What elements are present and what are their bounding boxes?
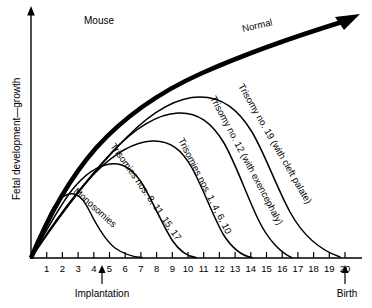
x-tick-label: 20 <box>340 263 351 274</box>
chart-canvas: 1 2 3 4 5 6 7 8 9 10 11 12 13 14 15 16 1… <box>0 0 372 308</box>
x-tick-label: 13 <box>230 263 241 274</box>
x-tick-label: 19 <box>324 263 335 274</box>
curve-label-trisomies-8-11-15-17: Trisomies nos. 8, 11, 15, 17 <box>108 141 184 242</box>
figure-fetal-development-chart: 1 2 3 4 5 6 7 8 9 10 11 12 13 14 15 16 1… <box>0 0 372 308</box>
x-tick-label: 17 <box>293 263 304 274</box>
x-tick-labels: 1 2 3 4 5 6 7 8 9 10 11 12 13 14 15 16 1… <box>44 263 350 274</box>
y-axis-title: Fetal development—growth <box>11 78 22 200</box>
implantation-arrow-icon <box>98 265 105 284</box>
x-tick-label: 3 <box>75 263 80 274</box>
x-tick-label: 16 <box>277 263 288 274</box>
x-tick-label: 1 <box>44 263 49 274</box>
x-tick-label: 15 <box>261 263 272 274</box>
x-tick-label: 5 <box>107 263 112 274</box>
x-tick-label: 11 <box>199 263 209 274</box>
x-tick-label: 7 <box>138 263 143 274</box>
curve-label-trisomy-19: Trisomy no. 19 (with cleft palate) <box>236 82 314 206</box>
curve-normal <box>31 14 360 258</box>
x-tick-label: 9 <box>170 263 175 274</box>
birth-label: Birth <box>337 288 358 299</box>
curve-label-trisomies-1-4-6-10: Trisomies nos. 1, 4, 6, 10 <box>176 136 234 236</box>
x-tick-label: 14 <box>246 263 257 274</box>
x-tick-label: 8 <box>154 263 159 274</box>
y-axis <box>27 6 35 258</box>
x-tick-label: 6 <box>123 263 128 274</box>
x-tick-label: 2 <box>60 263 65 274</box>
x-tick-label: 12 <box>214 263 225 274</box>
x-tick-label: 4 <box>91 263 96 274</box>
x-tick-label: 18 <box>308 263 319 274</box>
curve-label-normal: Normal <box>241 16 273 34</box>
chart-title: Mouse <box>84 15 114 26</box>
implantation-label: Implantation <box>75 288 129 299</box>
x-tick-label: 10 <box>183 263 194 274</box>
